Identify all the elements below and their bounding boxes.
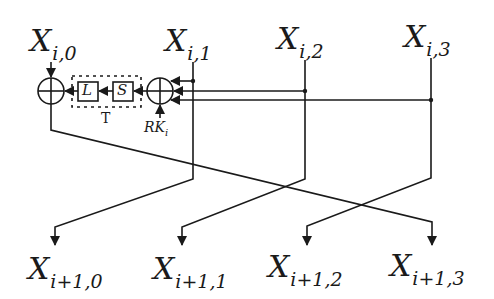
- output-label-3: Xi+1,3: [390, 251, 465, 288]
- input-label-2: Xi,2: [277, 24, 324, 61]
- input-label-0: Xi,0: [30, 26, 77, 63]
- junction-dot-2: [303, 89, 307, 93]
- output-label-2: Xi+1,2: [268, 252, 343, 289]
- junction-dot-3: [429, 98, 433, 102]
- t-label: T: [101, 111, 110, 125]
- output-label-1: Xi+1,1: [153, 254, 228, 291]
- xor-right: [147, 78, 173, 104]
- s-label: S: [117, 83, 127, 98]
- xor-left: [38, 78, 64, 104]
- junction-dot-1: [191, 79, 195, 83]
- output-label-0: Xi+1,0: [28, 254, 103, 291]
- path-x2-to-out1: [182, 60, 305, 245]
- input-label-3: Xi,3: [404, 22, 451, 59]
- round-key-label: RKi: [144, 120, 168, 138]
- input-label-1: Xi,1: [165, 26, 212, 63]
- l-label: L: [82, 83, 92, 98]
